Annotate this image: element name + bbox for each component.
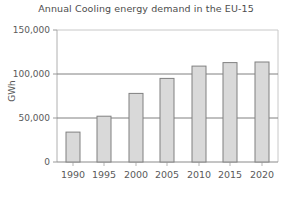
y-tick-150000: 150,000 <box>13 25 50 35</box>
y-axis-ticks <box>53 30 57 162</box>
x-tick-1990: 1990 <box>61 169 85 180</box>
bar-2005 <box>160 78 174 162</box>
cooling-energy-bar-chart: Annual Cooling energy demand in the EU-1… <box>0 0 292 197</box>
bar-1990 <box>66 132 80 162</box>
bar-1995 <box>97 116 111 162</box>
plot-area: 0 50,000 100,000 150,000 1990 <box>0 0 292 197</box>
x-tick-2010: 2010 <box>187 169 211 180</box>
bar-2020 <box>255 62 269 162</box>
x-tick-1995: 1995 <box>92 169 116 180</box>
x-tick-2015: 2015 <box>218 169 242 180</box>
x-axis-tick-labels: 1990 1995 2000 2005 2010 2015 2020 <box>61 169 274 180</box>
x-axis-ticks <box>73 162 262 166</box>
y-tick-50000: 50,000 <box>19 113 51 123</box>
x-tick-2005: 2005 <box>155 169 179 180</box>
x-tick-2000: 2000 <box>124 169 148 180</box>
x-tick-2020: 2020 <box>250 169 274 180</box>
y-axis-tick-labels: 0 50,000 100,000 150,000 <box>13 25 50 167</box>
bar-2010 <box>192 66 206 162</box>
bar-series <box>66 62 269 162</box>
y-tick-100000: 100,000 <box>13 69 50 79</box>
y-tick-0: 0 <box>44 157 50 167</box>
bar-2015 <box>223 63 237 162</box>
bar-2000 <box>129 93 143 162</box>
